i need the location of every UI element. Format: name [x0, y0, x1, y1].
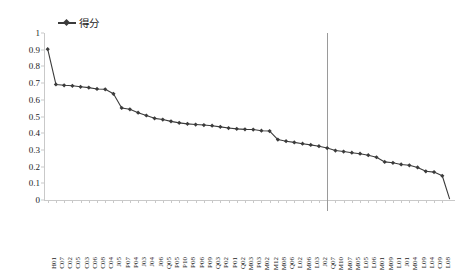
x-axis-label: L02 [297, 257, 304, 268]
chart-legend: 得分 [58, 16, 99, 30]
x-axis-label: L05 [363, 257, 370, 268]
x-axis-label: M05 [355, 257, 362, 270]
x-axis-label: P01 [232, 257, 239, 268]
x-axis-label: L09 [421, 257, 428, 268]
x-axis-label: M04 [412, 257, 419, 270]
x-axis-label: J04 [149, 257, 156, 267]
x-axis-label: H01 [51, 257, 58, 269]
plot-area: 00.10.20.30.40.50.60.70.80.91 [44, 33, 455, 200]
x-axis-label: M03 [248, 257, 255, 270]
legend-line-marker-icon [58, 22, 76, 24]
x-axis-label: P08 [190, 257, 197, 268]
x-axis-label: M07 [347, 257, 354, 270]
x-axis-label: L08 [445, 257, 452, 268]
x-axis-label: P02 [223, 257, 230, 268]
legend-label-score: 得分 [79, 18, 99, 29]
x-axis-label: C05 [75, 257, 82, 269]
x-axis-label: C03 [84, 257, 91, 269]
x-axis-label: Q02 [240, 257, 247, 269]
x-axis-label: L03 [314, 257, 321, 268]
x-axis-label: C09 [437, 257, 444, 269]
x-axis-label: P07 [125, 257, 132, 268]
x-axis-label: P05 [174, 257, 181, 268]
x-axis-label: C08 [100, 257, 107, 269]
x-axis-label: L01 [396, 257, 403, 268]
x-axis-label: M10 [338, 257, 345, 270]
x-axis-label: M12 [273, 257, 280, 270]
x-axis-label: J02 [322, 257, 329, 267]
x-axis-label: M01 [379, 257, 386, 270]
x-axis-label: P06 [199, 257, 206, 268]
x-axis-label: M09 [388, 257, 395, 270]
x-axis-label: J06 [158, 257, 165, 267]
x-axis-label: M08 [281, 257, 288, 270]
x-axis-labels: H01C07C02C05C03C06C08C04J05P07P04J03J04J… [44, 203, 455, 259]
x-axis-label: Q05 [166, 257, 173, 269]
x-axis-label: L04 [429, 257, 436, 268]
x-axis-label: J05 [116, 257, 123, 267]
x-axis-label: P04 [133, 257, 140, 268]
x-axis-label: C07 [59, 257, 66, 269]
x-axis-label: M06 [306, 257, 313, 270]
x-axis-label: M02 [264, 257, 271, 270]
x-axis-label: P09 [207, 257, 214, 268]
series-score-path [44, 33, 455, 200]
x-axis-label: C06 [92, 257, 99, 269]
